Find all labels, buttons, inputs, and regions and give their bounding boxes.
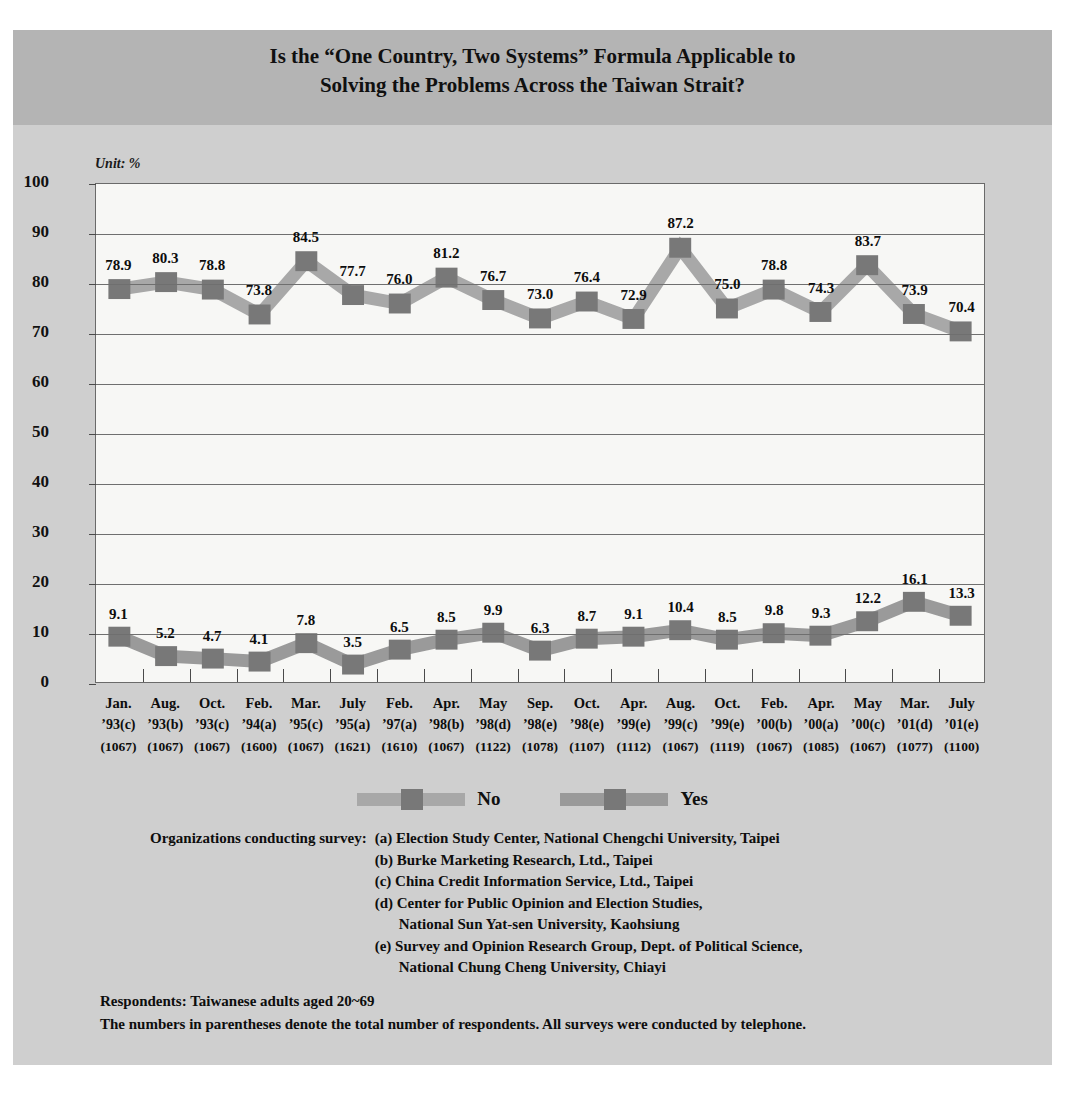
x-axis-category: Feb.’97(a)(1610) xyxy=(376,692,423,758)
gridline xyxy=(96,334,984,335)
survey-notes: Organizations conducting survey: (a) Ele… xyxy=(150,828,1030,979)
data-value-label: 7.8 xyxy=(296,612,315,629)
data-point-marker xyxy=(295,251,317,271)
data-value-label: 8.5 xyxy=(437,609,456,626)
org-list-item: (a) Election Study Center, National Chen… xyxy=(375,828,1030,850)
legend: No Yes xyxy=(13,788,1052,810)
x-axis-category: July’95(a)(1621) xyxy=(329,692,376,758)
x-axis-category: Oct.’93(c)(1067) xyxy=(189,692,236,758)
data-value-label: 4.7 xyxy=(203,628,222,645)
data-value-label: 80.3 xyxy=(152,250,178,267)
footnotes: Respondents: Taiwanese adults aged 20~69… xyxy=(100,990,1040,1036)
data-value-label: 73.0 xyxy=(527,286,553,303)
data-point-marker xyxy=(436,268,458,288)
x-axis-sample-size: (1107) xyxy=(563,736,610,758)
data-point-marker xyxy=(529,309,551,329)
data-point-marker xyxy=(529,641,551,661)
x-axis-category: Apr.’00(a)(1085) xyxy=(798,692,845,758)
x-axis-sample-size: (1067) xyxy=(657,736,704,758)
data-point-marker xyxy=(108,279,130,299)
x-axis-tick xyxy=(611,669,612,682)
data-value-label: 5.2 xyxy=(156,625,175,642)
x-axis-category: May’00(c)(1067) xyxy=(844,692,891,758)
x-axis-category: Oct.’99(e)(1119) xyxy=(704,692,751,758)
x-axis-month: May xyxy=(844,692,891,714)
data-value-label: 78.8 xyxy=(761,257,787,274)
x-axis-category: Apr.’98(b)(1067) xyxy=(423,692,470,758)
data-value-label: 16.1 xyxy=(902,571,928,588)
x-axis-category: July’01(e)(1100) xyxy=(938,692,985,758)
data-point-marker xyxy=(342,655,364,675)
x-axis-month: Apr. xyxy=(423,692,470,714)
y-axis-tick xyxy=(89,634,96,635)
data-point-marker xyxy=(950,321,972,341)
y-axis-tick-label: 20 xyxy=(0,572,49,592)
legend-item-yes[interactable]: Yes xyxy=(560,788,707,810)
x-axis-month: Feb. xyxy=(751,692,798,714)
x-axis-year: ’95(c) xyxy=(282,714,329,736)
y-axis-tick-label: 50 xyxy=(0,422,49,442)
x-axis-category: Aug.’93(b)(1067) xyxy=(142,692,189,758)
x-axis-year: ’98(e) xyxy=(563,714,610,736)
data-point-marker xyxy=(249,652,271,672)
x-axis-year: ’01(e) xyxy=(938,714,985,736)
x-axis-sample-size: (1119) xyxy=(704,736,751,758)
x-axis-year: ’93(c) xyxy=(189,714,236,736)
x-axis-sample-size: (1621) xyxy=(329,736,376,758)
x-axis-year: ’93(b) xyxy=(142,714,189,736)
legend-label-yes: Yes xyxy=(680,788,707,810)
x-axis-tick xyxy=(705,669,706,682)
org-list: (a) Election Study Center, National Chen… xyxy=(375,828,1030,979)
data-value-label: 4.1 xyxy=(250,631,269,648)
data-point-marker xyxy=(669,238,691,258)
org-list-item: (b) Burke Marketing Research, Ltd., Taip… xyxy=(375,850,1030,872)
data-value-label: 78.8 xyxy=(199,257,225,274)
page-title: Is the “One Country, Two Systems” Formul… xyxy=(13,42,1052,100)
x-axis-month: July xyxy=(329,692,376,714)
x-axis-category: Mar.’95(c)(1067) xyxy=(282,692,329,758)
x-axis-year: ’94(a) xyxy=(236,714,283,736)
x-axis-tick xyxy=(752,669,753,682)
x-axis-tick xyxy=(190,669,191,682)
x-axis-year: ’00(c) xyxy=(844,714,891,736)
x-axis-sample-size: (1600) xyxy=(236,736,283,758)
y-axis-tick xyxy=(89,534,96,535)
x-axis-category: Oct.’98(e)(1107) xyxy=(563,692,610,758)
x-axis-month: July xyxy=(938,692,985,714)
x-axis-sample-size: (1067) xyxy=(189,736,236,758)
y-axis-tick xyxy=(89,384,96,385)
plot-area xyxy=(95,183,985,683)
data-point-marker xyxy=(108,627,130,647)
data-point-marker xyxy=(389,640,411,660)
legend-item-no[interactable]: No xyxy=(357,788,500,810)
x-axis-month: Apr. xyxy=(798,692,845,714)
title-line-1: Is the “One Country, Two Systems” Formul… xyxy=(13,42,1052,71)
data-point-marker xyxy=(809,302,831,322)
data-point-marker xyxy=(342,285,364,305)
data-point-marker xyxy=(249,305,271,325)
x-axis-month: Feb. xyxy=(376,692,423,714)
x-axis-category: Mar.’01(d)(1077) xyxy=(891,692,938,758)
x-axis-tick xyxy=(658,669,659,682)
x-axis-sample-size: (1077) xyxy=(891,736,938,758)
x-axis-tick xyxy=(939,669,940,682)
data-point-marker xyxy=(576,292,598,312)
x-axis-sample-size: (1100) xyxy=(938,736,985,758)
gridline xyxy=(96,484,984,485)
y-axis-tick xyxy=(89,484,96,485)
gridline xyxy=(96,434,984,435)
x-axis-sample-size: (1067) xyxy=(142,736,189,758)
x-axis-tick xyxy=(330,669,331,682)
x-axis-year: ’00(b) xyxy=(751,714,798,736)
org-list-item: (e) Survey and Opinion Research Group, D… xyxy=(375,936,1030,958)
legend-swatch-no xyxy=(357,793,465,806)
x-axis-year: ’99(e) xyxy=(610,714,657,736)
data-point-marker xyxy=(856,255,878,275)
x-axis-tick xyxy=(471,669,472,682)
x-axis-tick xyxy=(518,669,519,682)
data-value-label: 78.9 xyxy=(105,257,131,274)
y-axis-tick xyxy=(89,184,96,185)
y-axis-tick xyxy=(89,284,96,285)
data-value-label: 73.8 xyxy=(246,282,272,299)
y-axis-tick xyxy=(89,434,96,435)
